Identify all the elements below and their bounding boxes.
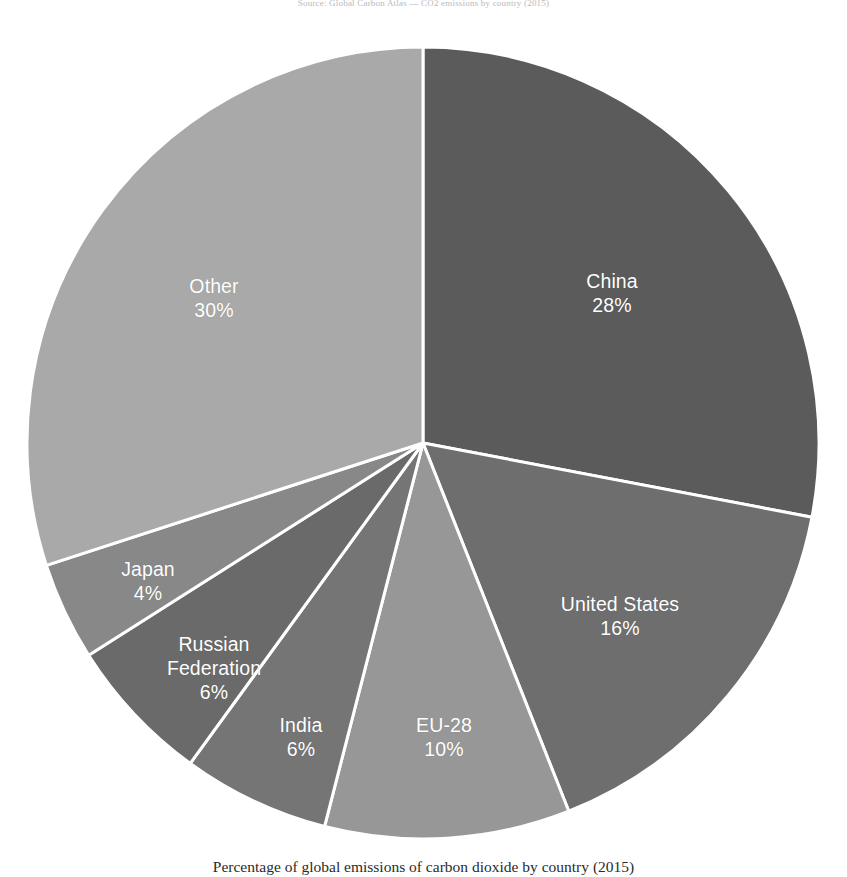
pie-label-india: India6% xyxy=(280,713,323,761)
pie-label-name-line2: Federation xyxy=(167,656,261,680)
pie-label-name: India xyxy=(280,713,323,737)
pie-label-value: 28% xyxy=(586,293,637,317)
pie-label-japan: Japan4% xyxy=(121,557,175,605)
pie-label-value: 30% xyxy=(189,298,238,322)
pie-label-name: Other xyxy=(189,274,238,298)
pie-label-united-states: United States16% xyxy=(561,592,679,640)
pie-label-name-line1: Russian xyxy=(167,632,261,656)
pie-label-value: 10% xyxy=(416,737,472,761)
pie-label-value: 16% xyxy=(561,616,679,640)
pie-label-russian-federation: RussianFederation6% xyxy=(167,632,261,704)
pie-label-value: 6% xyxy=(167,680,261,704)
pie-label-china: China28% xyxy=(586,269,637,317)
figure-caption: Percentage of global emissions of carbon… xyxy=(0,857,847,877)
pie-label-name: Japan xyxy=(121,557,175,581)
pie-label-eu-28: EU-2810% xyxy=(416,713,472,761)
pie-label-name: EU-28 xyxy=(416,713,472,737)
pie-label-name: China xyxy=(586,269,637,293)
chart-plot-area: China28%United States16%EU-2810%India6%R… xyxy=(0,0,847,845)
pie-label-value: 6% xyxy=(280,737,323,761)
pie-label-name: United States xyxy=(561,592,679,616)
pie-label-other: Other30% xyxy=(189,274,238,322)
pie-label-value: 4% xyxy=(121,581,175,605)
pie-chart-figure: Source: Global Carbon Atlas — CO2 emissi… xyxy=(0,0,847,877)
